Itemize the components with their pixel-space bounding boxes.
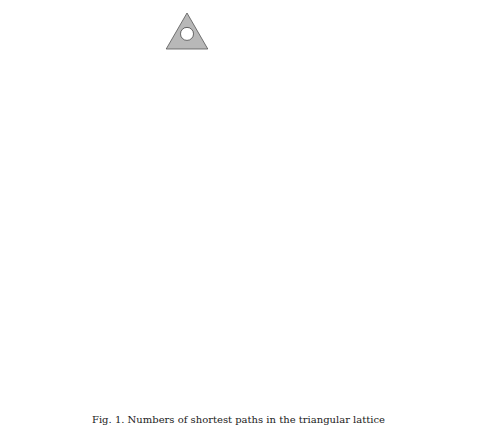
lattice-cell bbox=[166, 13, 208, 49]
lattice-svg bbox=[0, 0, 477, 410]
triangular-lattice-figure bbox=[0, 0, 477, 410]
figure-caption: Fig. 1. Numbers of shortest paths in the… bbox=[0, 414, 477, 425]
white-circle-icon bbox=[181, 27, 194, 40]
